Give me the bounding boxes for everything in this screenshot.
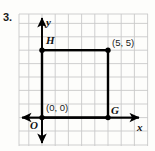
label-origin-o: O (30, 119, 38, 131)
label-h: H (45, 34, 55, 46)
graph-svg: H (5, 5) (0, 0) G O y x (0, 0, 155, 151)
vertex-h-point (39, 48, 44, 53)
label-axis-y: y (44, 16, 51, 28)
vertex-origin-point (39, 115, 44, 120)
label-axis-x: x (136, 121, 143, 133)
vertex-top-right-point (105, 48, 110, 53)
vertex-g-point (105, 115, 110, 120)
label-g: G (111, 104, 119, 116)
label-origin-coord: (0, 0) (46, 102, 68, 113)
plot-background (19, 14, 148, 146)
label-top-right-coord: (5, 5) (112, 37, 134, 48)
coordinate-plane-figure: 3. (0, 0, 155, 151)
